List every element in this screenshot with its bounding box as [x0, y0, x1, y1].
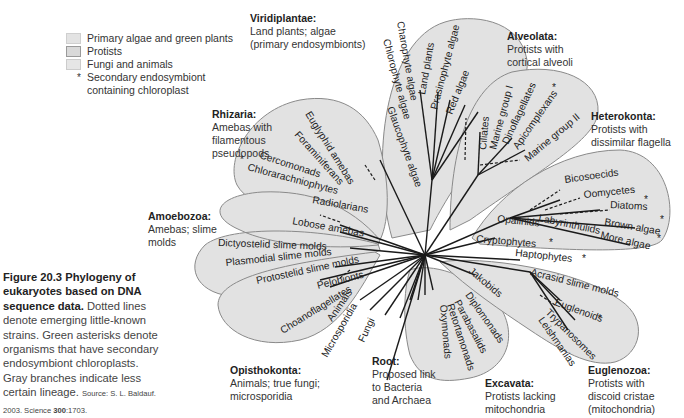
legend-label: Protists [87, 45, 122, 58]
group-name: Euglenozoa: [588, 364, 655, 377]
legend-label: Fungi and animals [87, 58, 173, 71]
source-suffix: :1703. [66, 406, 87, 415]
figure-caption: Figure 20.3 Phylogeny of eukaryotes base… [3, 270, 163, 418]
legend-item-protists: Protists [66, 45, 233, 58]
group-name: Alveolata: [507, 30, 573, 43]
group-viridiplantae: Viridiplantae: Land plants; algae (prima… [250, 12, 366, 51]
group-desc: Protists lacking [485, 390, 556, 402]
group-excavata: Excavata: Protists lacking mitochondria [485, 377, 556, 416]
taxon-diatoms: Diatoms [610, 199, 648, 212]
group-name: Viridiplantae: [250, 12, 366, 25]
legend-label: Secondary endosymbiont [87, 71, 206, 84]
group-desc: microsporidia [230, 390, 292, 402]
group-desc: Protists with [507, 43, 564, 55]
group-heterokonta: Heterokonta: Protists with dissimilar fl… [591, 110, 671, 149]
source-volume: 300 [53, 406, 66, 415]
group-desc: (mitochondria) [588, 403, 655, 415]
swatch-plants [66, 33, 81, 44]
group-desc: Protists with [591, 123, 648, 135]
group-rhizaria: Rhizaria: Amebas with filamentous pseudo… [212, 108, 272, 160]
legend-label: containing chloroplast [87, 84, 189, 97]
group-euglenozoa: Euglenozoa: Protists with discoid crista… [588, 364, 655, 416]
group-desc: molds [148, 236, 176, 248]
group-name: Amoebozoa: [148, 210, 217, 223]
group-desc: Proposed link [372, 368, 436, 380]
group-desc: (primary endosymbionts) [250, 38, 366, 50]
group-desc: Land plants; algae [250, 25, 336, 37]
star-icon: * [66, 71, 81, 84]
star-icon: * [549, 237, 553, 248]
star-icon: * [552, 82, 556, 93]
group-desc: Protists with [588, 377, 645, 389]
taxon-fungi: Fungi [356, 316, 377, 344]
star-icon: * [644, 194, 648, 205]
swatch-fungi [66, 59, 81, 70]
group-name: Excavata: [485, 377, 556, 390]
legend-item-star: * Secondary endosymbiont [66, 71, 233, 84]
group-name: Heterokonta: [591, 110, 671, 123]
legend-item-star-cont: containing chloroplast [66, 84, 233, 97]
legend-item-fungi: Fungi and animals [66, 58, 233, 71]
group-alveolata: Alveolata: Protists with cortical alveol… [507, 30, 573, 69]
group-desc: Amebas; slime [148, 223, 217, 235]
star-icon: * [582, 253, 586, 264]
group-name: Rhizaria: [212, 108, 272, 121]
group-desc: filamentous [212, 134, 266, 146]
group-opisthokonta: Opisthokonta: Animals; true fungi; micro… [230, 364, 320, 403]
group-desc: Animals; true fungi; [230, 377, 320, 389]
group-amoebozoa: Amoebozoa: Amebas; slime molds [148, 210, 217, 249]
group-name: Opisthokonta: [230, 364, 320, 377]
star-icon: * [598, 313, 602, 324]
legend: Primary algae and green plants Protists … [66, 32, 233, 97]
group-desc: to Bacteria [372, 381, 422, 393]
group-name: Root: [372, 355, 436, 368]
legend-label: Primary algae and green plants [87, 32, 233, 45]
group-desc: dissimilar flagella [591, 136, 671, 148]
group-root: Root: Proposed link to Bacteria and Arch… [372, 355, 436, 407]
group-desc: discoid cristae [588, 390, 655, 402]
caption-body: Dotted lines denote emerging little-know… [3, 300, 158, 398]
swatch-protists [66, 46, 81, 57]
group-desc: Amebas with [212, 121, 272, 133]
star-icon: * [657, 233, 661, 244]
group-desc: cortical alveoli [507, 56, 573, 68]
group-desc: pseudopods [212, 147, 269, 159]
group-desc: and Archaea [372, 394, 431, 406]
star-icon: * [660, 214, 664, 225]
legend-item-plants: Primary algae and green plants [66, 32, 233, 45]
group-desc: mitochondria [485, 403, 545, 415]
